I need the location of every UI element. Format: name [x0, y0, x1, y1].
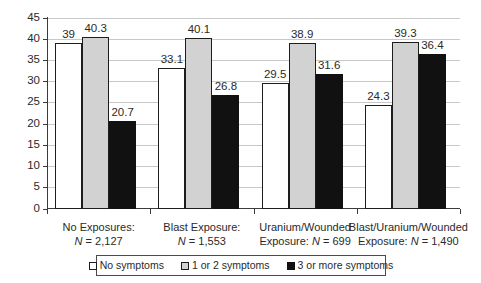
y-tick-mark — [43, 145, 48, 146]
y-tick-label: 45 — [27, 12, 40, 24]
y-tick-mark — [43, 187, 48, 188]
x-tick-mark — [460, 209, 461, 214]
y-tick-label: 30 — [27, 75, 40, 87]
white-square-marker — [89, 262, 97, 270]
legend-item-0: No symptoms — [89, 260, 164, 271]
category-label-line1: No Exposures: — [63, 220, 135, 234]
plot-area: 051015202530354045 3940.320.733.140.126.… — [47, 17, 460, 209]
bar-1-1 — [185, 38, 212, 208]
bar-2-2 — [316, 74, 343, 208]
legend-item-label: 1 or 2 symptoms — [192, 260, 270, 271]
category-label-line2: Exposure: N = 1,490 — [349, 234, 468, 248]
bar-value-label: 33.1 — [161, 54, 183, 66]
y-tick-mark — [43, 124, 48, 125]
category-label-line2: N = 1,553 — [163, 234, 240, 248]
bar-value-label: 36.4 — [421, 40, 443, 52]
category-label-line2: Exposure: N = 699 — [259, 234, 351, 248]
gray-square-marker — [181, 262, 189, 270]
bar-0-2 — [262, 83, 289, 208]
y-tick-label: 5 — [34, 182, 40, 194]
bar-value-label: 39.3 — [394, 28, 416, 40]
y-tick-mark — [43, 60, 48, 61]
y-tick-mark — [43, 102, 48, 103]
bar-value-label: 39 — [62, 29, 75, 41]
x-tick-mark — [357, 209, 358, 214]
bar-value-label: 26.8 — [215, 81, 237, 93]
bar-1-3 — [392, 42, 419, 209]
bar-1-2 — [289, 43, 316, 208]
bar-0-0 — [55, 43, 82, 209]
y-tick-label: 0 — [34, 203, 40, 215]
bar-2-0 — [109, 121, 136, 209]
gridline — [48, 18, 460, 19]
bar-2-1 — [212, 95, 239, 209]
legend-item-label: No symptoms — [100, 260, 164, 271]
bar-chart-figure: 051015202530354045 3940.320.733.140.126.… — [0, 0, 481, 283]
y-tick-label: 15 — [27, 139, 40, 151]
y-tick-label: 10 — [27, 160, 40, 172]
x-category-label: No Exposures:N = 2,127 — [63, 220, 135, 248]
bar-value-label: 20.7 — [111, 107, 133, 119]
bar-1-0 — [82, 37, 109, 208]
category-label-line1: Blast/Uranium/Wounded — [349, 220, 468, 234]
bar-value-label: 29.5 — [264, 69, 286, 81]
y-tick-label: 40 — [27, 33, 40, 45]
bar-value-label: 40.3 — [84, 23, 106, 35]
y-tick-mark — [43, 81, 48, 82]
legend-item-2: 3 or more symptoms — [287, 260, 394, 271]
category-label-line2: N = 2,127 — [63, 234, 135, 248]
y-tick-label: 25 — [27, 97, 40, 109]
bar-2-3 — [419, 54, 446, 208]
y-tick-label: 35 — [27, 54, 40, 66]
chart-legend: No symptoms1 or 2 symptoms3 or more symp… — [96, 255, 386, 276]
black-square-marker — [287, 262, 295, 270]
bar-0-1 — [158, 68, 185, 208]
x-category-label: Blast/Uranium/WoundedExposure: N = 1,490 — [349, 220, 468, 248]
x-tick-mark — [254, 209, 255, 214]
legend-item-1: 1 or 2 symptoms — [181, 260, 270, 271]
bar-value-label: 40.1 — [188, 24, 210, 36]
x-tick-mark — [47, 209, 48, 214]
category-label-line1: Blast Exposure: — [163, 220, 240, 234]
x-category-label: Blast Exposure:N = 1,553 — [163, 220, 240, 248]
y-axis-line — [47, 17, 48, 209]
bar-value-label: 38.9 — [291, 29, 313, 41]
bar-value-label: 31.6 — [318, 60, 340, 72]
bar-value-label: 24.3 — [367, 91, 389, 103]
x-category-label: Uranium/WoundedExposure: N = 699 — [259, 220, 351, 248]
category-label-line1: Uranium/Wounded — [259, 220, 351, 234]
y-tick-mark — [43, 18, 48, 19]
x-tick-mark — [150, 209, 151, 214]
legend-item-label: 3 or more symptoms — [298, 260, 394, 271]
y-tick-label: 20 — [27, 118, 40, 130]
bar-0-3 — [365, 105, 392, 208]
y-tick-mark — [43, 39, 48, 40]
y-tick-mark — [43, 166, 48, 167]
